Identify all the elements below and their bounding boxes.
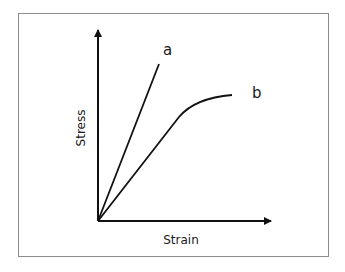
curve-a <box>98 64 159 221</box>
stress-strain-diagram: a b Strain Stress <box>0 0 345 272</box>
curve-b-label: b <box>252 84 262 102</box>
y-axis-label: Stress <box>74 110 88 147</box>
curve-a-label: a <box>163 41 172 59</box>
x-axis-label: Strain <box>163 233 199 247</box>
curve-b <box>98 95 232 221</box>
